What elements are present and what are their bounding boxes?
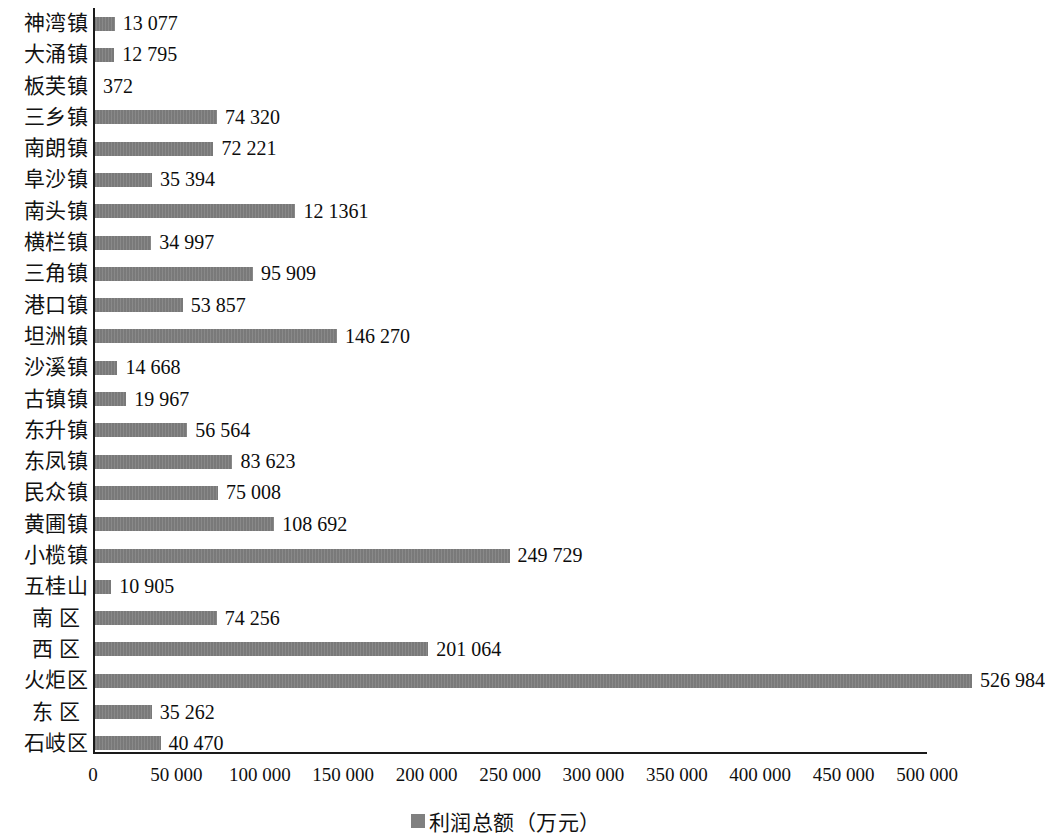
bar-value-label: 74 256	[225, 603, 280, 634]
chart-row: 南朗镇72 221	[0, 133, 1011, 164]
bar-value-label: 14 668	[125, 352, 180, 383]
chart-row: 东升镇56 564	[0, 415, 1011, 446]
bar	[93, 267, 253, 281]
chart-row: 横栏镇34 997	[0, 227, 1011, 258]
category-label: 沙溪镇	[0, 352, 88, 383]
category-label: 石岐区	[0, 728, 88, 759]
x-axis-tick-labels: 050 000100 000150 000200 000250 000300 0…	[0, 762, 1011, 792]
category-label: 三乡镇	[0, 102, 88, 133]
bar-value-label: 108 692	[282, 509, 347, 540]
bar	[93, 455, 232, 469]
category-label: 西区	[0, 634, 88, 665]
y-axis-line	[93, 8, 95, 752]
chart-row: 三乡镇74 320	[0, 102, 1011, 133]
bar-value-label: 74 320	[225, 102, 280, 133]
bar-track: 34 997	[93, 227, 1011, 258]
chart-row: 神湾镇13 077	[0, 8, 1011, 39]
category-label: 横栏镇	[0, 227, 88, 258]
bar	[93, 674, 972, 688]
bar-value-label: 146 270	[345, 321, 410, 352]
chart-row: 小榄镇249 729	[0, 540, 1011, 571]
category-label: 坦洲镇	[0, 321, 88, 352]
bar-track: 249 729	[93, 540, 1011, 571]
bar-track: 108 692	[93, 509, 1011, 540]
chart-rows: 神湾镇13 077大涌镇12 795板芙镇372三乡镇74 320南朗镇72 2…	[0, 8, 1011, 759]
chart-row: 黄圃镇108 692	[0, 509, 1011, 540]
bar-track: 72 221	[93, 133, 1011, 164]
bar-value-label: 13 077	[123, 8, 178, 39]
bar	[93, 298, 183, 312]
bar-value-label: 72 221	[221, 133, 276, 164]
chart-row: 阜沙镇35 394	[0, 164, 1011, 195]
chart-row: 民众镇75 008	[0, 477, 1011, 508]
bar-value-label: 249 729	[518, 540, 583, 571]
bar-track: 35 262	[93, 697, 1011, 728]
bar	[93, 361, 117, 375]
bar-track: 35 394	[93, 164, 1011, 195]
chart-row: 东区35 262	[0, 697, 1011, 728]
bar-value-label: 40 470	[169, 728, 224, 759]
category-label: 黄圃镇	[0, 509, 88, 540]
x-tick-label: 150 000	[312, 762, 374, 788]
bar-track: 40 470	[93, 728, 1011, 759]
bar-track: 372	[93, 71, 1011, 102]
x-tick-label: 400 000	[729, 762, 791, 788]
category-label: 大涌镇	[0, 39, 88, 70]
bar-value-label: 35 262	[160, 697, 215, 728]
bar	[93, 423, 187, 437]
chart-row: 大涌镇12 795	[0, 39, 1011, 70]
bar-track: 201 064	[93, 634, 1011, 665]
bar-value-label: 53 857	[191, 290, 246, 321]
x-tick-label: 50 000	[150, 762, 202, 788]
bar	[93, 329, 337, 343]
bar-track: 74 320	[93, 102, 1011, 133]
category-label: 神湾镇	[0, 8, 88, 39]
x-axis-line	[93, 752, 927, 754]
bar	[93, 705, 152, 719]
x-tick-label: 100 000	[229, 762, 291, 788]
bar	[93, 17, 115, 31]
x-tick-label: 450 000	[813, 762, 875, 788]
bar-track: 146 270	[93, 321, 1011, 352]
bar-value-label: 10 905	[119, 571, 174, 602]
bar	[93, 517, 274, 531]
chart-row: 港口镇53 857	[0, 290, 1011, 321]
category-label: 东升镇	[0, 415, 88, 446]
bar-track: 14 668	[93, 352, 1011, 383]
chart-row: 三角镇95 909	[0, 258, 1011, 289]
category-label: 阜沙镇	[0, 164, 88, 195]
chart-row: 沙溪镇14 668	[0, 352, 1011, 383]
bar	[93, 642, 428, 656]
chart-row: 南区74 256	[0, 603, 1011, 634]
bar-value-label: 56 564	[195, 415, 250, 446]
bar-value-label: 34 997	[159, 227, 214, 258]
chart-row: 坦洲镇146 270	[0, 321, 1011, 352]
legend-label: 利润总额（万元）	[429, 806, 601, 836]
chart-row: 东凤镇83 623	[0, 446, 1011, 477]
category-label: 小榄镇	[0, 540, 88, 571]
bar-track: 19 967	[93, 384, 1011, 415]
bar	[93, 736, 161, 750]
bar-value-label: 372	[103, 71, 133, 102]
bar-track: 526 984	[93, 665, 1011, 696]
chart-row: 南头镇12 1361	[0, 196, 1011, 227]
bar-value-label: 201 064	[436, 634, 501, 665]
bar	[93, 236, 151, 250]
bar	[93, 142, 213, 156]
category-label: 南区	[0, 603, 88, 634]
category-label: 东凤镇	[0, 446, 88, 477]
category-label: 南头镇	[0, 196, 88, 227]
bar-track: 83 623	[93, 446, 1011, 477]
x-tick-label: 350 000	[646, 762, 708, 788]
bar	[93, 580, 111, 594]
category-label: 港口镇	[0, 290, 88, 321]
x-tick-label: 200 000	[396, 762, 458, 788]
chart-row: 西区201 064	[0, 634, 1011, 665]
chart-row: 五桂山10 905	[0, 571, 1011, 602]
chart-row: 古镇镇19 967	[0, 384, 1011, 415]
x-tick-label: 0	[88, 762, 98, 788]
chart-legend: 利润总额（万元）	[0, 806, 1011, 836]
x-tick-label: 250 000	[479, 762, 541, 788]
bar-track: 56 564	[93, 415, 1011, 446]
category-label: 南朗镇	[0, 133, 88, 164]
